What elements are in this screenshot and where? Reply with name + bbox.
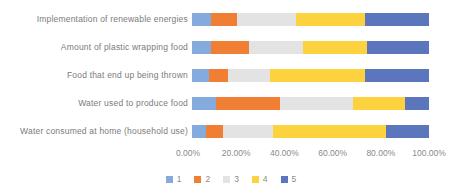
chart-row: Food that end up being thrown (0, 61, 462, 89)
legend-swatch (252, 176, 259, 183)
bar-segment-1 (192, 125, 206, 138)
chart-row: Implementation of renewable energies (0, 5, 462, 33)
bar-segment-5 (386, 125, 429, 138)
bar-segment-5 (365, 13, 429, 26)
category-label: Food that end up being thrown (0, 70, 192, 80)
bar-segment-4 (296, 13, 365, 26)
bar-segment-2 (209, 69, 228, 82)
bar-segment-3 (249, 41, 304, 54)
legend-label: 1 (177, 174, 182, 184)
legend-item: 2 (194, 174, 210, 184)
bar-segment-5 (367, 41, 429, 54)
bar-segment-2 (216, 97, 280, 110)
x-axis-tick-label: 100.00% (412, 148, 446, 158)
x-axis-tick-label: 0.00% (176, 148, 200, 158)
bar-segment-4 (273, 125, 387, 138)
chart-row: Water used to produce food (0, 89, 462, 117)
bar-segment-1 (192, 13, 211, 26)
stacked-bar (192, 69, 429, 82)
x-axis-tick-label: 40.00% (270, 148, 299, 158)
category-label: Water consumed at home (household use) (0, 126, 192, 136)
legend: 12345 (0, 174, 462, 184)
bar-segment-3 (280, 97, 353, 110)
stacked-bar (192, 125, 429, 138)
legend-label: 2 (205, 174, 210, 184)
legend-item: 3 (223, 174, 239, 184)
x-axis-tick-label: 60.00% (318, 148, 347, 158)
bar-segment-1 (192, 69, 209, 82)
legend-item: 5 (281, 174, 297, 184)
legend-label: 3 (234, 174, 239, 184)
stacked-bar (192, 41, 429, 54)
stacked-bar-chart: Implementation of renewable energiesAmou… (0, 0, 462, 194)
chart-row: Water consumed at home (household use) (0, 117, 462, 145)
bar-segment-4 (303, 41, 367, 54)
category-label: Water used to produce food (0, 98, 192, 108)
stacked-bar (192, 97, 429, 110)
bar-segment-2 (211, 41, 249, 54)
legend-swatch (166, 176, 173, 183)
legend-swatch (194, 176, 201, 183)
legend-swatch (223, 176, 230, 183)
bar-segment-1 (192, 97, 216, 110)
legend-label: 4 (263, 174, 268, 184)
bar-segment-2 (206, 125, 223, 138)
bar-segment-4 (353, 97, 405, 110)
bar-segment-2 (211, 13, 237, 26)
bar-segment-3 (223, 125, 273, 138)
legend-item: 4 (252, 174, 268, 184)
plot-area: Implementation of renewable energiesAmou… (0, 5, 462, 145)
bar-segment-5 (405, 97, 429, 110)
bar-segment-1 (192, 41, 211, 54)
legend-item: 1 (166, 174, 182, 184)
category-label: Implementation of renewable energies (0, 14, 192, 24)
stacked-bar (192, 13, 429, 26)
bar-segment-3 (237, 13, 296, 26)
bar-segment-5 (365, 69, 429, 82)
legend-label: 5 (292, 174, 297, 184)
x-axis: 0.00%20.00%40.00%60.00%80.00%100.00% (188, 148, 429, 160)
category-label: Amount of plastic wrapping food (0, 42, 192, 52)
x-axis-tick-label: 80.00% (366, 148, 395, 158)
chart-row: Amount of plastic wrapping food (0, 33, 462, 61)
bar-segment-4 (270, 69, 365, 82)
x-axis-tick-label: 20.00% (222, 148, 251, 158)
bar-segment-3 (228, 69, 271, 82)
legend-swatch (281, 176, 288, 183)
